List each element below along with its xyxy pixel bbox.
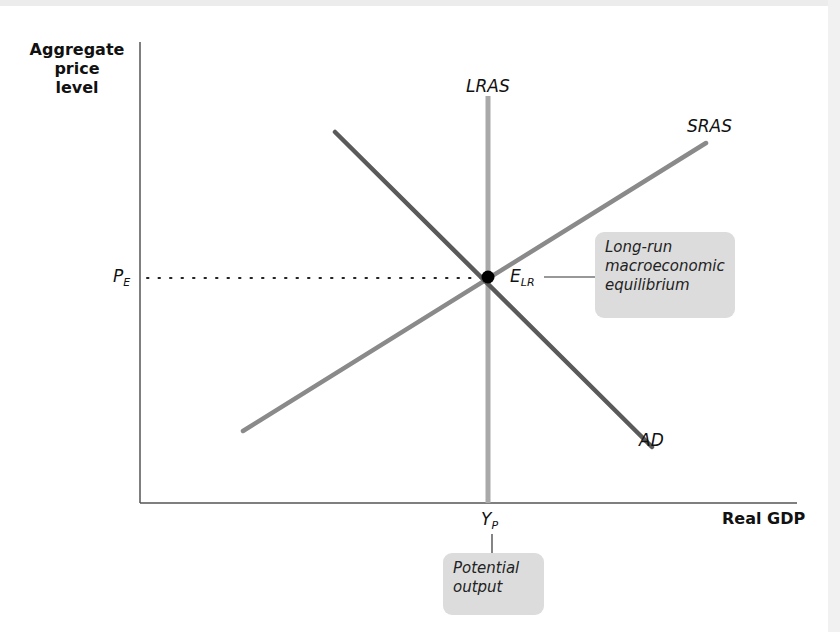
callout-line: output xyxy=(453,578,534,597)
equilibrium-point xyxy=(482,271,495,284)
lras-label: LRAS xyxy=(466,76,510,96)
price-tick-label: PE xyxy=(113,266,130,286)
equilibrium-label-main: E xyxy=(510,266,521,286)
equilibrium-label: ELR xyxy=(510,266,535,286)
callout-line: macroeconomic xyxy=(605,257,725,276)
sras-label: SRAS xyxy=(687,116,732,136)
ad-label: AD xyxy=(639,430,664,450)
y-axis-title-line: Aggregate xyxy=(22,40,132,59)
potential-output-callout: Potential output xyxy=(443,553,544,615)
output-tick-sub: P xyxy=(491,519,498,532)
y-axis-title-line: level xyxy=(22,78,132,97)
output-tick-main: Y xyxy=(481,509,491,529)
callout-line: Potential xyxy=(453,559,534,578)
price-tick-main: P xyxy=(113,266,123,286)
equilibrium-label-sub: LR xyxy=(521,276,535,289)
y-axis-title: Aggregate price level xyxy=(22,40,132,97)
output-tick-label: YP xyxy=(481,509,498,529)
x-axis-title: Real GDP xyxy=(722,509,812,528)
callout-line: Long-run xyxy=(605,238,725,257)
callout-line: equilibrium xyxy=(605,276,725,295)
equilibrium-callout: Long-run macroeconomic equilibrium xyxy=(595,232,735,318)
y-axis-title-line: price xyxy=(22,59,132,78)
price-tick-sub: E xyxy=(123,276,130,289)
